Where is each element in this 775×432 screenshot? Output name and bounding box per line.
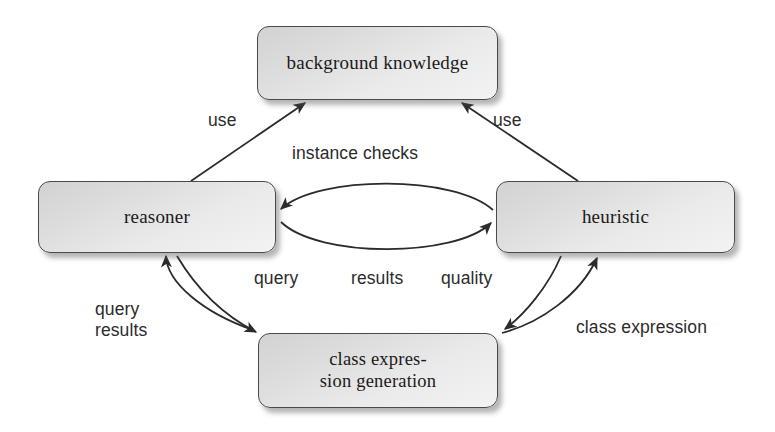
- edge-query-results: [166, 256, 253, 330]
- edge-results: [281, 222, 491, 249]
- edge-quality: [505, 256, 561, 329]
- node-background-knowledge[interactable]: background knowledge: [257, 26, 498, 100]
- node-reasoner-label: reasoner: [124, 206, 190, 228]
- edge-instance-checks: [281, 184, 493, 210]
- edge-label-class-expression: class expression: [576, 317, 707, 338]
- node-class-expression-generation[interactable]: class expres- sion generation: [258, 333, 498, 408]
- node-class-expression-generation-label: class expres- sion generation: [320, 349, 437, 393]
- edge-label-instance-checks: instance checks: [292, 143, 418, 164]
- node-heuristic-label: heuristic: [582, 206, 649, 228]
- node-background-knowledge-label: background knowledge: [287, 52, 469, 74]
- edge-label-results: results: [351, 268, 403, 289]
- node-heuristic[interactable]: heuristic: [496, 181, 735, 253]
- diagram-canvas: background knowledge reasoner heuristic …: [0, 0, 775, 432]
- edge-label-use-left: use: [208, 110, 237, 131]
- node-reasoner[interactable]: reasoner: [38, 181, 276, 253]
- edge-label-query-results: query results: [95, 299, 147, 342]
- edge-label-quality: quality: [441, 268, 492, 289]
- edge-label-query: query: [254, 268, 298, 289]
- edge-label-use-right: use: [493, 110, 522, 131]
